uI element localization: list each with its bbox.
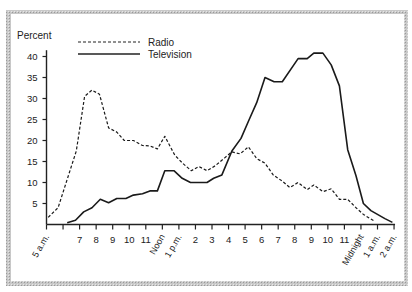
x-tick-label: 2 (193, 234, 198, 245)
frame-border-bottom (6, 281, 408, 286)
legend-radio-label: Radio (148, 37, 175, 48)
x-tick-label: 1 p.m. (162, 233, 183, 260)
x-tick-label: 8 (94, 234, 99, 245)
y-tick-label: 40 (27, 51, 38, 62)
x-tick-label: 11 (141, 234, 151, 245)
chart-frame: Percent Radio Television 510152025303540… (0, 0, 412, 292)
series-lines (48, 53, 392, 223)
axes: 5101520253035405 a.m.7891011Noon1 p.m.23… (27, 50, 399, 267)
y-tick-label: 35 (27, 72, 38, 83)
legend: Radio Television (78, 37, 192, 60)
legend-tv-label: Television (148, 49, 192, 60)
x-tick-label: 10 (124, 234, 135, 245)
x-tick-label: 11 (339, 234, 349, 245)
y-tick-label: 15 (27, 156, 38, 167)
x-tick-label: 8 (292, 234, 297, 245)
x-tick-label: 9 (309, 234, 314, 245)
x-tick-label: 5 (242, 234, 247, 245)
frame-border-right (404, 10, 408, 286)
y-axis-title: Percent (17, 30, 52, 41)
x-tick-label: 7 (276, 234, 281, 245)
x-tick-label: 6 (259, 234, 264, 245)
y-tick-label: 20 (27, 135, 38, 146)
y-tick-label: 10 (27, 177, 38, 188)
x-tick-label: 3 (209, 234, 214, 245)
frame-border-top (6, 10, 408, 14)
x-tick-label: 2 a.m. (378, 233, 399, 260)
x-tick-label: 4 (226, 234, 231, 245)
frame-border-left (6, 10, 11, 286)
x-tick-label: 7 (77, 234, 82, 245)
x-tick-label: 10 (323, 234, 334, 245)
television-line (67, 53, 392, 223)
x-tick-label: 5 a.m. (30, 233, 51, 260)
y-tick-label: 5 (32, 198, 37, 209)
x-tick-label: 9 (110, 234, 115, 245)
y-tick-label: 30 (27, 93, 38, 104)
y-tick-label: 25 (27, 114, 38, 125)
